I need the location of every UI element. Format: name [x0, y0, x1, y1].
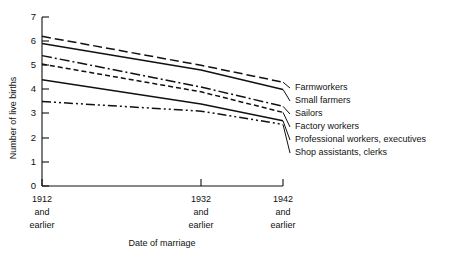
y-axis-ticks: 7 6 5 4 3 2 1 0 — [31, 11, 49, 191]
x-cat-1932-year: 1932 — [191, 194, 211, 204]
series-label-small-farmers: Small farmers — [295, 95, 351, 105]
y-tick-label-4: 4 — [31, 83, 36, 94]
y-tick-label-6: 6 — [31, 35, 36, 46]
x-cat-1942-and: and — [275, 207, 290, 217]
x-cat-1912-and: and — [34, 207, 49, 217]
chart-container: Number of live births 7 6 5 4 3 2 1 0 — [0, 0, 454, 260]
series-label-factory-workers: Factory workers — [295, 121, 360, 131]
series-line-farmworkers — [42, 36, 283, 82]
series-label-shop-assistants: Shop assistants, clerks — [295, 147, 388, 157]
leader-line-0 — [283, 82, 290, 88]
series-leader-lines — [283, 82, 290, 153]
series-line-small-farmers — [42, 44, 283, 90]
series-label-farmworkers: Farmworkers — [295, 82, 348, 92]
y-axis-title: Number of live births — [8, 76, 18, 159]
x-cat-1912-earlier: earlier — [29, 220, 54, 230]
y-tick-label-3: 3 — [31, 107, 36, 118]
x-cat-1942-year: 1942 — [273, 194, 293, 204]
series-label-professional-workers: Professional workers, executives — [295, 134, 427, 144]
x-cat-1932-and: and — [193, 207, 208, 217]
y-tick-label-0: 0 — [31, 180, 36, 191]
y-tick-label-2: 2 — [31, 132, 36, 143]
series-labels-group: Farmworkers Small farmers Sailors Factor… — [295, 82, 427, 157]
x-axis-ticks — [42, 179, 283, 186]
y-tick-label-1: 1 — [31, 156, 36, 167]
leader-line-5 — [283, 124, 290, 153]
x-axis-title: Date of marriage — [128, 238, 195, 248]
leader-line-2 — [283, 106, 290, 114]
y-tick-label-7: 7 — [31, 11, 36, 22]
line-chart: Number of live births 7 6 5 4 3 2 1 0 — [0, 0, 454, 260]
series-lines-group — [42, 36, 283, 124]
leader-line-1 — [283, 89, 290, 101]
x-axis-category-labels: 1912 and earlier 1932 and earlier 1942 a… — [29, 194, 295, 230]
x-cat-1932-earlier: earlier — [188, 220, 213, 230]
x-cat-1912-year: 1912 — [32, 194, 52, 204]
y-tick-label-5: 5 — [31, 59, 36, 70]
x-cat-1942-earlier: earlier — [270, 220, 295, 230]
series-line-factory-workers — [42, 64, 283, 112]
series-label-sailors: Sailors — [295, 108, 323, 118]
series-line-professional-workers-executives — [42, 80, 283, 121]
